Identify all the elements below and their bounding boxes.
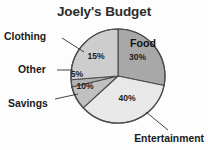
slice-percent-food: 30% [129,52,147,62]
slice-percent-entertainment: 40% [118,93,136,103]
slice-percent-savings: 10% [76,81,94,91]
slice-label-other: Other [18,64,46,75]
chart-canvas: Joely's Budget 30% 40% 10% 5% 15% Food C… [0,0,208,150]
slice-label-savings: Savings [8,98,48,109]
slice-label-clothing: Clothing [4,31,46,42]
pie-chart-figure: Joely's Budget 30% 40% 10% 5% 15% Food C… [0,0,208,150]
slice-label-entertainment: Entertainment [134,133,204,144]
slice-percent-other: 5% [71,69,84,79]
slice-label-food: Food [130,37,156,49]
slice-percent-clothing: 15% [87,51,105,61]
page-title: Joely's Budget [57,4,152,19]
